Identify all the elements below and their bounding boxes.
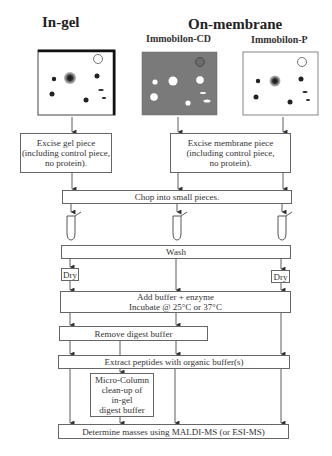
- immobilon-p-subtitle: Immobilon-P: [251, 34, 308, 45]
- determine-text: Determine masses using MALDI-MS (or ESI-…: [82, 427, 265, 437]
- excise-membrane-text: Excise membrane piece (including control…: [186, 138, 274, 168]
- add-buffer-text: Add buffer + enzyme Incubate @ 25°C or 3…: [129, 292, 222, 312]
- dry-left-text: Dry: [63, 270, 77, 280]
- chop-box: Chop into small pieces.: [62, 190, 292, 204]
- dry-right-text: Dry: [274, 272, 288, 282]
- add-buffer-box: Add buffer + enzyme Incubate @ 25°C or 3…: [60, 291, 291, 313]
- dry-right-box: Dry: [271, 270, 290, 283]
- dry-left-box: Dry: [61, 268, 79, 281]
- in-gel-title: In-gel: [42, 14, 80, 31]
- excise-gel-box: Excise gel piece (including control piec…: [20, 133, 112, 173]
- excise-membrane-box: Excise membrane piece (including control…: [170, 133, 291, 173]
- in-gel-panel: [38, 50, 115, 115]
- immobilon-p-panel: [243, 52, 318, 115]
- wash-text: Wash: [166, 247, 186, 257]
- extract-text: Extract peptides with organic buffer(s): [104, 357, 243, 367]
- chop-text: Chop into small pieces.: [135, 192, 220, 202]
- tube-icons: [67, 212, 292, 240]
- on-membrane-title: On-membrane: [188, 16, 282, 33]
- determine-box: Determine masses using MALDI-MS (or ESI-…: [58, 424, 289, 439]
- diagram-graphics: [0, 0, 332, 456]
- excise-gel-text: Excise gel piece (including control piec…: [22, 138, 110, 168]
- wash-box: Wash: [61, 245, 291, 259]
- immobilon-cd-subtitle: Immobilon-CD: [146, 33, 211, 44]
- remove-digest-text: Remove digest buffer: [95, 329, 173, 339]
- tube-icon-left: [67, 212, 81, 240]
- micro-column-box: Micro-Column clean-up of in-gel digest b…: [90, 373, 154, 417]
- remove-digest-box: Remove digest buffer: [59, 326, 208, 341]
- extract-box: Extract peptides with organic buffer(s): [58, 355, 290, 369]
- tube-icon-middle: [173, 212, 187, 240]
- micro-column-text: Micro-Column clean-up of in-gel digest b…: [95, 375, 149, 415]
- immobilon-cd-panel: [142, 52, 217, 115]
- tube-icon-right: [278, 212, 292, 240]
